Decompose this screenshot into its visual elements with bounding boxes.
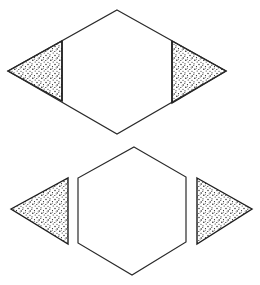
top-right-shaded-triangle	[172, 41, 226, 103]
bottom-hexagon	[78, 147, 186, 275]
top-rhombus-group	[8, 10, 226, 134]
diagram-canvas	[0, 0, 260, 285]
bottom-left-shaded-triangle	[11, 178, 68, 244]
diagram-svg	[0, 0, 260, 285]
top-left-shaded-triangle	[8, 41, 62, 101]
bottom-right-shaded-triangle	[197, 178, 252, 244]
bottom-separated-group	[11, 147, 252, 275]
